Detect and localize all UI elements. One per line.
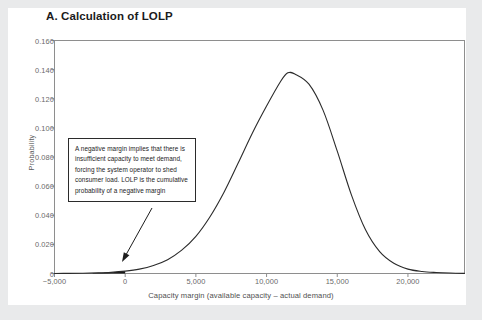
- page-title: A. Calculation of LOLP: [46, 10, 173, 22]
- y-tick-label: 0.080: [20, 153, 54, 162]
- y-tick-label: 0.040: [20, 211, 54, 220]
- y-axis-label: Probability: [27, 113, 36, 193]
- x-tick-label: 10,000: [237, 277, 297, 286]
- x-axis-ticks: −5,00005,00010,00015,00020,000: [0, 277, 482, 291]
- y-tick-label: 0.100: [20, 123, 54, 132]
- y-tick-label: 0.020: [20, 240, 54, 249]
- x-tick-label: −5,000: [25, 277, 85, 286]
- y-tick-label: 0.140: [20, 65, 54, 74]
- x-tick-label: 0: [95, 277, 155, 286]
- x-tick-label: 15,000: [307, 277, 367, 286]
- x-tick-label: 20,000: [378, 277, 438, 286]
- x-axis-label: Capacity margin (available capacity – ac…: [0, 291, 482, 300]
- y-tick-label: 0.160: [20, 36, 54, 45]
- annotation-textbox: A negative margin implies that there is …: [68, 138, 196, 202]
- y-tick-label: 0.120: [20, 94, 54, 103]
- x-tick-label: 5,000: [166, 277, 226, 286]
- y-tick-label: 0.060: [20, 182, 54, 191]
